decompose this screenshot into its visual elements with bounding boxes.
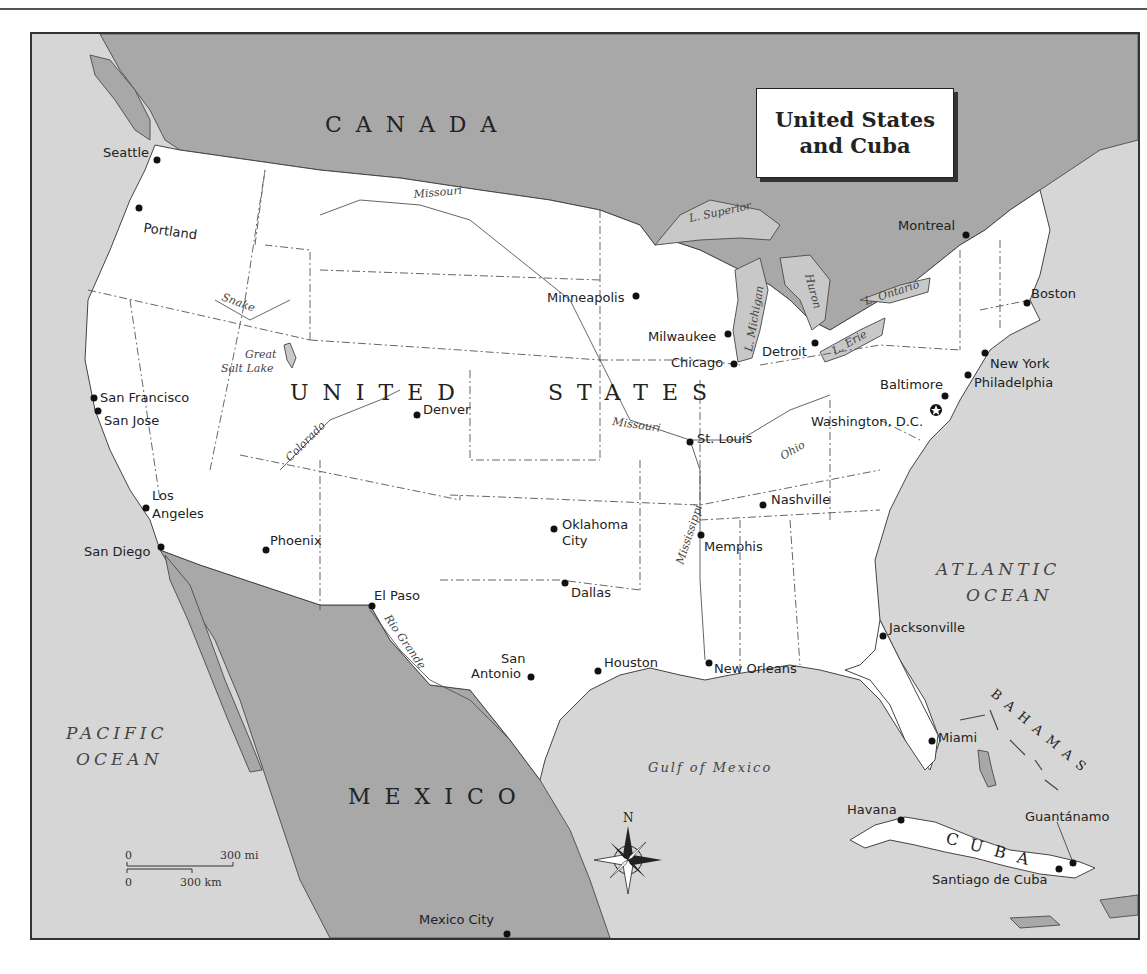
city-label-montreal: Montreal — [898, 218, 955, 233]
label-states: STATES — [548, 380, 721, 405]
city-dot-guantanamo — [1070, 860, 1077, 867]
label-atlantic-2: OCEAN — [966, 585, 1053, 605]
map-canvas: CANADA UNITED STATES MEXICO CUBA BAHAMAS… — [0, 0, 1147, 974]
city-label-detroit: Detroit — [762, 344, 807, 359]
capital-star-icon — [930, 404, 942, 416]
city-dot-jacksonville — [880, 633, 887, 640]
city-dot-houston — [595, 668, 602, 675]
city-label-new-york: New York — [990, 356, 1050, 371]
label-mexico: MEXICO — [348, 784, 530, 809]
city-dot-baltimore — [942, 393, 949, 400]
city-label-santiago-de-cuba: Santiago de Cuba — [932, 872, 1047, 887]
city-dot-phoenix — [263, 547, 270, 554]
city-dot-st-louis — [687, 439, 694, 446]
city-label-miami: Miami — [938, 730, 977, 745]
label-atlantic-1: ATLANTIC — [934, 559, 1060, 579]
city-label-guantanamo: Guantánamo — [1025, 809, 1109, 824]
label-canada: CANADA — [325, 112, 510, 137]
city-dot-new-orleans — [706, 660, 713, 667]
city-dot-seattle — [154, 157, 161, 164]
city-label-san-antonio-1: San — [501, 651, 525, 666]
label-great-salt-lake-2: Salt Lake — [221, 362, 274, 375]
city-label-san-francisco: San Francisco — [100, 390, 189, 405]
city-dot-santiago-de-cuba — [1056, 866, 1063, 873]
city-dot-new-york — [982, 350, 989, 357]
city-dot-detroit — [812, 340, 819, 347]
city-dot-san-francisco — [91, 395, 98, 402]
compass-north-label: N — [623, 811, 634, 825]
city-label-minneapolis: Minneapolis — [547, 290, 625, 305]
city-label-denver: Denver — [423, 402, 471, 417]
city-dot-mexico-city — [504, 931, 511, 938]
city-label-boston: Boston — [1031, 286, 1076, 301]
city-dot-montreal — [963, 232, 970, 239]
city-label-seattle: Seattle — [103, 145, 149, 160]
city-dot-miami — [929, 738, 936, 745]
city-label-washington-dc: Washington, D.C. — [811, 414, 923, 429]
map-title-box: United States and Cuba — [756, 88, 954, 178]
city-dot-memphis — [698, 532, 705, 539]
city-label-oklahoma-city-1: Oklahoma — [562, 517, 628, 532]
city-dot-havana — [898, 817, 905, 824]
map-title-line-1: United States — [775, 107, 935, 133]
city-label-los-angeles-1: Los — [152, 488, 174, 503]
city-label-st-louis: St. Louis — [697, 431, 752, 446]
scale-mi-zero: 0 — [125, 849, 132, 862]
city-label-el-paso: El Paso — [374, 588, 420, 603]
city-dot-el-paso — [369, 603, 376, 610]
city-label-chicago: Chicago — [671, 355, 723, 370]
city-label-oklahoma-city-2: City — [562, 533, 588, 548]
city-dot-dallas — [562, 580, 569, 587]
city-label-phoenix: Phoenix — [270, 533, 322, 548]
city-dot-portland — [136, 205, 143, 212]
city-dot-oklahoma-city — [551, 526, 558, 533]
city-label-philadelphia: Philadelphia — [974, 375, 1053, 390]
city-dot-nashville — [760, 502, 767, 509]
scale-km-zero: 0 — [125, 876, 132, 889]
city-label-los-angeles-2: Angeles — [152, 506, 204, 521]
city-dot-chicago — [731, 361, 738, 368]
city-label-houston: Houston — [604, 655, 658, 670]
city-label-mexico-city: Mexico City — [419, 912, 494, 927]
city-label-new-orleans: New Orleans — [714, 661, 797, 676]
label-pacific-2: OCEAN — [76, 749, 163, 769]
scale-mi-label: 300 mi — [220, 849, 259, 862]
city-dot-denver — [414, 412, 421, 419]
map-title-line-2: and Cuba — [799, 133, 910, 159]
label-great-salt-lake-1: Great — [245, 348, 277, 361]
city-label-memphis: Memphis — [704, 539, 763, 554]
city-dot-san-jose — [95, 408, 102, 415]
city-dot-milwaukee — [725, 331, 732, 338]
city-label-milwaukee: Milwaukee — [648, 329, 716, 344]
city-dot-boston — [1024, 300, 1031, 307]
city-label-havana: Havana — [847, 802, 897, 817]
label-gulf-of-mexico: Gulf of Mexico — [648, 760, 772, 775]
city-label-san-antonio-2: Antonio — [471, 666, 521, 681]
city-dot-minneapolis — [633, 293, 640, 300]
city-label-san-diego: San Diego — [84, 544, 150, 559]
city-label-dallas: Dallas — [571, 585, 611, 600]
scale-km-label: 300 km — [180, 876, 222, 889]
city-dot-los-angeles — [143, 505, 150, 512]
city-dot-san-antonio — [528, 674, 535, 681]
city-dot-philadelphia — [965, 372, 972, 379]
label-pacific-1: PACIFIC — [65, 723, 167, 743]
city-dot-san-diego — [158, 544, 165, 551]
city-label-jacksonville: Jacksonville — [888, 620, 965, 635]
city-label-san-jose: San Jose — [104, 413, 159, 428]
city-label-nashville: Nashville — [771, 492, 830, 507]
city-label-baltimore: Baltimore — [880, 377, 943, 392]
